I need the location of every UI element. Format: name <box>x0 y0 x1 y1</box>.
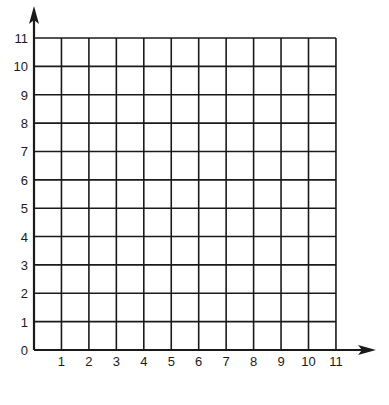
y-tick-label: 5 <box>21 201 28 216</box>
y-tick-label: 1 <box>21 315 28 330</box>
y-tick-label: 2 <box>21 286 28 301</box>
x-tick-label: 9 <box>277 354 284 369</box>
y-tick-label: 8 <box>21 116 28 131</box>
x-tick-label: 2 <box>85 354 92 369</box>
chart-canvas: 1234567891011 01234567891011 <box>0 0 389 405</box>
grid-lines <box>34 38 336 350</box>
y-tick-label: 10 <box>14 59 28 74</box>
x-tick-label: 10 <box>301 354 315 369</box>
x-tick-label: 8 <box>250 354 257 369</box>
y-tick-label: 9 <box>21 88 28 103</box>
y-tick-label: 0 <box>21 343 28 358</box>
y-axis-tick-labels: 01234567891011 <box>14 31 28 358</box>
x-tick-label: 1 <box>58 354 65 369</box>
x-tick-label: 6 <box>195 354 202 369</box>
y-tick-label: 11 <box>15 31 29 46</box>
coordinate-grid-chart: 1234567891011 01234567891011 <box>0 0 389 405</box>
x-tick-label: 7 <box>223 354 230 369</box>
x-axis-tick-labels: 1234567891011 <box>58 354 343 369</box>
y-tick-label: 4 <box>21 230 28 245</box>
x-tick-label: 3 <box>113 354 120 369</box>
y-tick-label: 7 <box>21 144 28 159</box>
y-tick-label: 6 <box>21 173 28 188</box>
x-tick-label: 11 <box>329 354 343 369</box>
y-tick-label: 3 <box>21 258 28 273</box>
x-tick-label: 5 <box>168 354 175 369</box>
x-tick-label: 4 <box>140 354 147 369</box>
